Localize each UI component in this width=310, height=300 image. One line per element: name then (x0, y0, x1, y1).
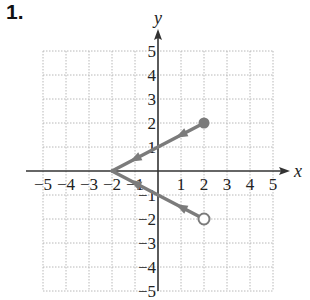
x-tick-label: 2 (200, 175, 209, 194)
open-endpoint-icon (199, 214, 210, 225)
filled-endpoint-icon (199, 118, 210, 129)
x-tick-label: −5 (34, 175, 52, 194)
y-tick-label: 3 (148, 90, 157, 109)
x-tick-label: 5 (269, 175, 278, 194)
y-tick-label: −2 (138, 210, 156, 229)
direction-arrow-icon (130, 152, 143, 162)
y-axis-label: y (152, 8, 162, 28)
x-axis-label: x (293, 161, 302, 181)
direction-arrow-icon (176, 204, 189, 214)
x-tick-label: 3 (223, 175, 232, 194)
x-tick-label: 1 (177, 175, 186, 194)
x-tick-label: 4 (246, 175, 255, 194)
y-tick-label: −3 (138, 234, 156, 253)
y-tick-label: −4 (138, 258, 157, 277)
x-tick-label: −4 (57, 175, 76, 194)
direction-arrow-icon (176, 128, 189, 138)
y-tick-label: 5 (148, 42, 157, 61)
y-tick-label: 4 (148, 66, 157, 85)
y-tick-label: 2 (148, 114, 157, 133)
coordinate-plane: −5−4−3−2−11234554321−1−2−3−4−5 x y (0, 0, 310, 300)
x-tick-label: −3 (80, 175, 98, 194)
x-tick-label: −2 (103, 175, 121, 194)
y-tick-label: −5 (138, 282, 156, 300)
